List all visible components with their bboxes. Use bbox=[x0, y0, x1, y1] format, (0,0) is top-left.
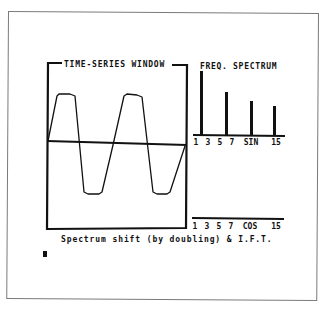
sin-tick-5: 5 bbox=[218, 138, 223, 147]
spectrum-bar-15 bbox=[273, 106, 276, 136]
spectrum-bar-1 bbox=[200, 71, 203, 135]
sin-axis-name: SIN bbox=[244, 138, 258, 147]
spectrum-bar-7 bbox=[225, 92, 228, 135]
spectrum-bar-11 bbox=[250, 101, 253, 136]
time-series-window-title: TIME-SERIES WINDOW bbox=[62, 60, 167, 69]
status-caption: Spectrum shift (by doubling) & I.F.T. bbox=[61, 235, 273, 245]
sin-tick-7: 7 bbox=[230, 138, 235, 147]
sin-axis-line bbox=[193, 135, 285, 136]
sin-tick-15: 15 bbox=[271, 138, 281, 147]
block-cursor-icon bbox=[43, 251, 47, 257]
time-series-window-border bbox=[47, 63, 187, 229]
cos-axis-line bbox=[192, 218, 284, 219]
cos-axis-name: COS bbox=[243, 222, 257, 231]
cos-tick-5: 5 bbox=[217, 222, 222, 231]
cos-tick-7: 7 bbox=[229, 222, 234, 231]
time-axis-line bbox=[47, 141, 187, 145]
cos-tick-15: 15 bbox=[271, 222, 281, 231]
cos-tick-1: 1 bbox=[193, 222, 198, 231]
time-series-window bbox=[47, 63, 187, 229]
frequency-spectrum-title: FREQ. SPECTRUM bbox=[200, 62, 277, 71]
screen-graphics bbox=[0, 0, 327, 310]
cos-tick-3: 3 bbox=[205, 222, 210, 231]
sin-tick-1: 1 bbox=[194, 138, 199, 147]
sin-tick-3: 3 bbox=[206, 138, 211, 147]
